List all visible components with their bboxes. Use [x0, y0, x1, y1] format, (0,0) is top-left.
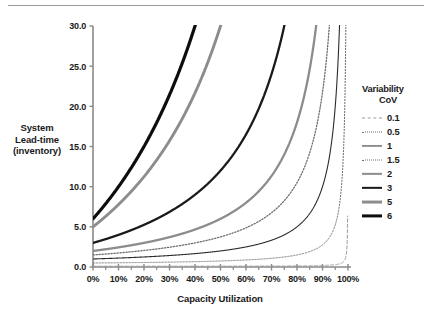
legend-entry-label: 0.1	[387, 113, 400, 123]
legend-entry-label: 2	[387, 169, 392, 179]
legend-swatch-icon	[362, 126, 382, 138]
legend-title: Variability CoV	[362, 84, 428, 106]
y-axis-tick-label: 25.0	[69, 62, 86, 72]
axes: 0.05.010.015.020.025.030.00%10%20%30%40%…	[69, 21, 359, 283]
y-axis-title: System Lead-time (inventory)	[4, 122, 70, 157]
series-line	[93, 0, 346, 263]
series-line	[93, 0, 295, 243]
chart-figure: 0.05.010.015.020.025.030.00%10%20%30%40%…	[0, 0, 431, 312]
y-axis-tick-label: 30.0	[69, 21, 86, 31]
y-axis-title-line-1: System	[20, 122, 53, 133]
x-axis-tick-label: 70%	[263, 274, 281, 284]
legend-entry[interactable]: 3	[362, 181, 428, 195]
legend-entry[interactable]: 5	[362, 195, 428, 209]
series-line	[93, 0, 333, 255]
legend-swatch-icon	[362, 196, 382, 208]
legend-entry-label: 0.5	[387, 127, 400, 137]
x-axis-tick-label: 60%	[237, 274, 255, 284]
x-axis-tick-label: 30%	[161, 274, 179, 284]
legend-swatch-icon	[362, 154, 382, 166]
x-axis-tick-label: 50%	[212, 274, 230, 284]
legend-entry-label: 1.5	[387, 155, 400, 165]
x-axis-tick-label: 80%	[288, 274, 306, 284]
x-axis-tick-label: 100%	[337, 274, 359, 284]
legend-swatch-icon	[362, 210, 382, 222]
legend-entry-label: 6	[387, 211, 392, 221]
x-axis-tick-label: 90%	[314, 274, 332, 284]
series-line	[93, 0, 322, 251]
y-axis-title-line-2: Lead-time	[15, 134, 59, 145]
series-group	[93, 0, 348, 266]
legend-entry-label: 5	[387, 197, 392, 207]
x-axis-tick-label: 20%	[135, 274, 153, 284]
legend-entry[interactable]: 6	[362, 209, 428, 223]
y-axis-tick-label: 15.0	[69, 142, 86, 152]
x-axis-tick-label: 10%	[110, 274, 128, 284]
y-axis-tick-label: 10.0	[69, 182, 86, 192]
y-axis-tick-label: 5.0	[74, 222, 86, 232]
x-axis-tick-label: 40%	[186, 274, 204, 284]
legend-entry-label: 3	[387, 183, 392, 193]
y-axis-tick-label: 20.0	[69, 102, 86, 112]
legend-swatch-icon	[362, 112, 382, 124]
x-axis-tick-label: 0%	[87, 274, 100, 284]
y-axis-tick-label: 0.0	[74, 262, 86, 272]
legend-entry-label: 1	[387, 141, 392, 151]
legend-title-line-2: CoV	[362, 95, 428, 106]
legend-swatch-icon	[362, 182, 382, 194]
series-line	[93, 0, 212, 219]
legend-entry[interactable]: 0.1	[362, 111, 428, 125]
series-line	[93, 216, 348, 266]
legend-swatch-icon	[362, 140, 382, 152]
legend: Variability CoV 0.10.511.52356	[362, 84, 428, 223]
legend-entry[interactable]: 2	[362, 167, 428, 181]
legend-entry[interactable]: 1	[362, 139, 428, 153]
legend-title-line-1: Variability	[362, 84, 404, 94]
legend-swatch-icon	[362, 168, 382, 180]
legend-entry[interactable]: 1.5	[362, 153, 428, 167]
legend-entry[interactable]: 0.5	[362, 125, 428, 139]
legend-entries: 0.10.511.52356	[362, 111, 428, 223]
y-axis-title-line-3: (inventory)	[13, 145, 61, 156]
x-axis-title: Capacity Utilization	[120, 293, 320, 304]
